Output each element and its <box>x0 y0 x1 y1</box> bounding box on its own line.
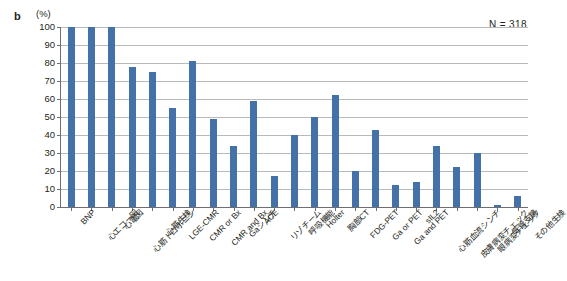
y-axis-tick-label: 60 <box>44 94 55 104</box>
bar <box>129 67 136 207</box>
bar-slot <box>284 27 304 207</box>
bar <box>250 101 257 207</box>
y-axis-tick-label: 30 <box>44 148 55 158</box>
y-axis-tick-label: 20 <box>44 166 55 176</box>
bar-slot <box>244 27 264 207</box>
bar-slot <box>162 27 182 207</box>
bar <box>291 135 298 207</box>
bar-slot <box>406 27 426 207</box>
bar-slot <box>386 27 406 207</box>
bar <box>189 61 196 207</box>
y-axis-tick-label: 80 <box>44 58 55 68</box>
y-axis-tick-label: 90 <box>44 40 55 50</box>
bar-slot <box>203 27 223 207</box>
x-axis-labels: BNP心エコー図心電図心筋トロポニン心筋生検LGE-CMRCMR or BxCM… <box>60 208 527 281</box>
bar <box>169 108 176 207</box>
bar-slot <box>508 27 528 207</box>
y-axis-tick-label: 100 <box>39 22 55 32</box>
bar <box>433 146 440 207</box>
bar <box>108 27 115 207</box>
bar-slot <box>264 27 284 207</box>
x-axis-label: 心電図 <box>122 208 145 231</box>
bar <box>68 27 75 207</box>
bar-slot <box>305 27 325 207</box>
bar <box>332 95 339 207</box>
plot-area: 0102030405060708090100 <box>60 27 528 208</box>
bar-slot <box>325 27 345 207</box>
bar <box>149 72 156 207</box>
bar-slot <box>142 27 162 207</box>
bar-slot <box>102 27 122 207</box>
bar <box>392 185 399 207</box>
bar-slot <box>365 27 385 207</box>
bar <box>352 171 359 207</box>
bar-slot <box>223 27 243 207</box>
panel-letter: b <box>14 11 21 22</box>
bar-slot <box>183 27 203 207</box>
x-axis-label: 胸部CT <box>346 208 371 233</box>
y-axis-tick-label: 10 <box>44 184 55 194</box>
y-axis-tick-label: 50 <box>44 112 55 122</box>
bar <box>514 196 521 207</box>
bar <box>271 176 278 207</box>
bar-slot <box>467 27 487 207</box>
bar-slot <box>81 27 101 207</box>
bar <box>474 153 481 207</box>
bar <box>413 182 420 207</box>
bar <box>453 167 460 207</box>
x-axis-label: BNP <box>79 208 97 226</box>
bar-slot <box>122 27 142 207</box>
bar <box>372 130 379 207</box>
bar-slot <box>61 27 81 207</box>
bar-slot <box>345 27 365 207</box>
bar-slot <box>487 27 507 207</box>
bar-series <box>61 27 528 207</box>
y-axis-unit-label: (%) <box>36 9 51 19</box>
bar <box>88 27 95 207</box>
y-axis-tick-label: 0 <box>50 202 55 212</box>
bar-slot <box>447 27 467 207</box>
bar <box>210 119 217 207</box>
bar <box>311 117 318 207</box>
y-axis-tick-label: 70 <box>44 76 55 86</box>
bar <box>230 146 237 207</box>
bar-slot <box>426 27 446 207</box>
y-axis-tick-label: 40 <box>44 130 55 140</box>
